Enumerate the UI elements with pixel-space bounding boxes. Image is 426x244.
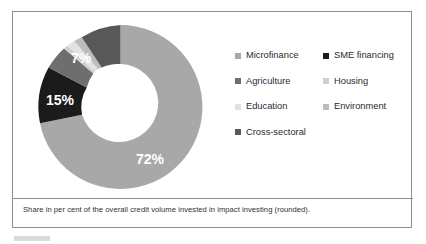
legend-row: Education Environment <box>235 101 407 112</box>
legend-label-agriculture: Agriculture <box>246 76 290 87</box>
legend-row: Agriculture Housing <box>235 76 407 87</box>
legend-label-sme-financing: SME financing <box>334 50 394 61</box>
legend-label-environment: Environment <box>334 101 386 112</box>
figure-root: 72% 15% 7% Microfinance SME financing <box>0 0 426 244</box>
legend-label-education: Education <box>246 101 287 112</box>
legend-item-microfinance[interactable]: Microfinance <box>235 50 323 61</box>
legend-item-education[interactable]: Education <box>235 101 323 112</box>
chart-panel: 72% 15% 7% Microfinance SME financing <box>12 11 412 228</box>
donut-chart: 72% 15% 7% <box>28 16 213 198</box>
slice-label-sme-financing: 15% <box>46 92 75 108</box>
scan-artefact <box>14 236 50 241</box>
slice-label-microfinance: 72% <box>136 151 165 167</box>
legend-item-environment[interactable]: Environment <box>323 101 407 112</box>
donut-chart-svg: 72% 15% 7% <box>28 16 213 198</box>
legend-item-agriculture[interactable]: Agriculture <box>235 76 323 87</box>
legend-label-microfinance: Microfinance <box>246 50 299 61</box>
caption-divider <box>13 198 413 199</box>
legend-label-housing: Housing <box>334 76 368 87</box>
legend-swatch-sme-financing <box>323 53 329 59</box>
legend-item-sme-financing[interactable]: SME financing <box>323 50 407 61</box>
legend-swatch-agriculture <box>235 78 241 84</box>
legend-item-cross-sectoral[interactable]: Cross-sectoral <box>235 127 323 138</box>
legend-swatch-microfinance <box>235 53 241 59</box>
plot-area: 72% 15% 7% Microfinance SME financing <box>13 12 413 198</box>
legend-swatch-education <box>235 104 241 110</box>
legend-item-housing[interactable]: Housing <box>323 76 407 87</box>
legend-label-cross-sectoral: Cross-sectoral <box>246 127 306 138</box>
chart-legend: Microfinance SME financing Agriculture H <box>235 50 407 152</box>
legend-swatch-housing <box>323 78 329 84</box>
legend-swatch-environment <box>323 104 329 110</box>
legend-row: Cross-sectoral <box>235 127 407 138</box>
legend-row: Microfinance SME financing <box>235 50 407 61</box>
legend-swatch-cross-sectoral <box>235 129 241 135</box>
figure-caption: Share in per cent of the overall credit … <box>23 205 405 215</box>
slice-label-agriculture: 7% <box>71 50 92 66</box>
